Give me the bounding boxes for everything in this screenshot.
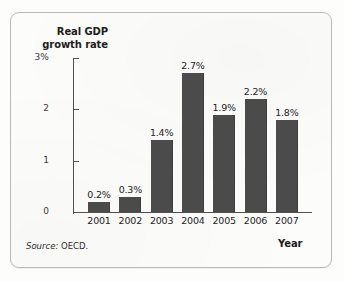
source-label: Source:: [26, 241, 58, 251]
bar-value-label: 1.9%: [206, 102, 242, 113]
bar-chart: Real GDP growth rate 0123% 0.2%20010.3%2…: [10, 12, 332, 268]
y-axis-line: [73, 58, 74, 214]
figure-page: Real GDP growth rate 0123% 0.2%20010.3%2…: [0, 0, 344, 282]
y-axis-tick-label: 2: [43, 103, 49, 113]
y-axis-tick: [74, 109, 79, 110]
bar[interactable]: [88, 202, 110, 212]
bar-value-label: 1.8%: [269, 107, 305, 118]
y-axis-tick: [74, 58, 79, 59]
x-axis-category-label: 2007: [269, 215, 305, 226]
bar-value-label: 0.3%: [112, 184, 148, 195]
bar-value-label: 2.7%: [175, 60, 211, 71]
bar[interactable]: [245, 99, 267, 212]
source-note: Source: OECD.: [26, 241, 88, 251]
y-axis-tick-label: 1: [43, 155, 49, 165]
y-axis-tick: [74, 161, 79, 162]
bar[interactable]: [213, 115, 235, 212]
bar[interactable]: [182, 73, 204, 212]
x-axis-line: [73, 212, 312, 213]
bar[interactable]: [151, 140, 173, 212]
bar[interactable]: [119, 197, 141, 212]
bar[interactable]: [276, 120, 298, 212]
x-axis-title: Year: [278, 238, 302, 249]
y-axis-title: Real GDP growth rate: [24, 26, 108, 51]
source-value: OECD.: [61, 241, 88, 251]
bar-value-label: 2.2%: [238, 86, 274, 97]
bar-value-label: 1.4%: [144, 127, 180, 138]
y-axis-tick-label: 0: [43, 206, 49, 216]
y-axis-tick-label: 3%: [35, 52, 49, 62]
